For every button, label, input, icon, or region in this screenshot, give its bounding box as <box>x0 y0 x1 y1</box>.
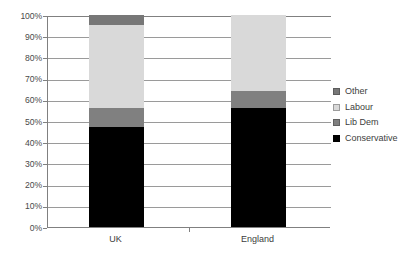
other-swatch-icon <box>333 88 340 95</box>
bar-segment-england-conservative[interactable] <box>231 108 286 227</box>
legend-label-labour: Labour <box>345 102 373 113</box>
stacked-bar-chart: 100% 90% 80% 70% 60% 50% 40% 30% 20% 10%… <box>0 0 417 253</box>
bar-segment-england-libdem[interactable] <box>231 91 286 108</box>
y-axis-tick-label: 20% <box>0 181 42 190</box>
y-axis-tick-label: 90% <box>0 33 42 42</box>
y-axis-tick-mark <box>43 228 47 229</box>
bar-segment-uk-conservative[interactable] <box>89 127 144 227</box>
y-axis-tick-label: 50% <box>0 118 42 127</box>
legend-item-conservative[interactable]: Conservative <box>333 131 417 147</box>
conservative-swatch-icon <box>333 135 340 142</box>
legend-item-libdem[interactable]: Lib Dem <box>333 115 417 131</box>
y-axis: 100% 90% 80% 70% 60% 50% 40% 30% 20% 10%… <box>0 0 42 253</box>
legend-label-conservative: Conservative <box>345 133 398 144</box>
bar-segment-uk-libdem[interactable] <box>89 108 144 127</box>
x-axis-tick-mark <box>189 228 190 232</box>
plot-area <box>47 16 330 228</box>
legend-label-other: Other <box>345 86 368 97</box>
bar-segment-uk-labour[interactable] <box>89 25 144 109</box>
bar-segment-uk-other[interactable] <box>89 15 144 25</box>
y-axis-tick-label: 70% <box>0 75 42 84</box>
x-axis-tick-label-uk: UK <box>88 233 143 245</box>
legend-item-other[interactable]: Other <box>333 84 417 100</box>
legend: Other Labour Lib Dem Conservative <box>333 84 417 146</box>
bar-england[interactable] <box>231 15 286 227</box>
legend-item-labour[interactable]: Labour <box>333 100 417 116</box>
bar-uk[interactable] <box>89 15 144 227</box>
x-axis-tick-label-england: England <box>230 233 285 245</box>
y-axis-tick-label: 40% <box>0 139 42 148</box>
y-axis-tick-label: 80% <box>0 54 42 63</box>
y-axis-tick-label: 0% <box>0 224 42 233</box>
y-axis-tick-label: 30% <box>0 160 42 169</box>
bar-segment-england-labour[interactable] <box>231 15 286 91</box>
legend-label-libdem: Lib Dem <box>345 117 379 128</box>
y-axis-tick-label: 60% <box>0 96 42 105</box>
labour-swatch-icon <box>333 104 340 111</box>
y-axis-tick-label: 100% <box>0 12 42 21</box>
y-axis-tick-label: 10% <box>0 202 42 211</box>
libdem-swatch-icon <box>333 119 340 126</box>
